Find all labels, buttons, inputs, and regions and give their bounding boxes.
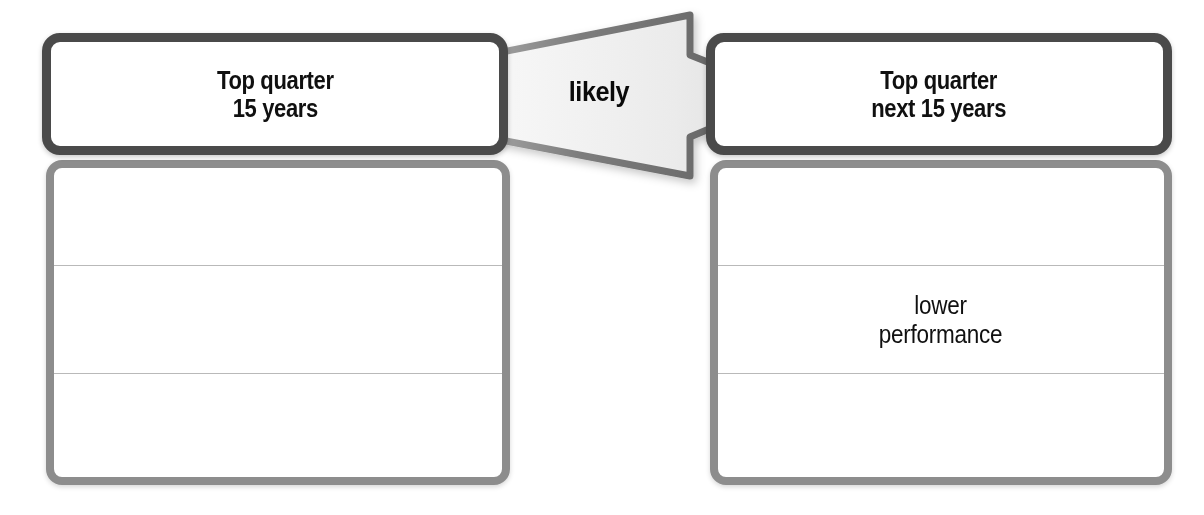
top-right-card[interactable]: Top quarter next 15 years bbox=[706, 33, 1172, 155]
bottom-left-band-middle[interactable] bbox=[54, 265, 502, 374]
bottom-left-band-top[interactable] bbox=[54, 168, 502, 265]
top-left-card-label: Top quarter 15 years bbox=[217, 66, 334, 122]
bottom-right-band-middle-label: lower performance bbox=[879, 291, 1002, 348]
arrow-label: likely bbox=[536, 76, 662, 108]
bottom-right-band-bottom[interactable] bbox=[718, 374, 1164, 477]
bottom-right-bands: lower performance bbox=[718, 168, 1164, 477]
top-left-card[interactable]: Top quarter 15 years bbox=[42, 33, 508, 155]
bottom-right-card[interactable]: lower performance bbox=[710, 160, 1172, 485]
bottom-right-band-top[interactable] bbox=[718, 168, 1164, 265]
bottom-right-band-middle[interactable]: lower performance bbox=[718, 265, 1164, 374]
bottom-left-bands bbox=[54, 168, 502, 477]
diagram-canvas: lower performance bbox=[0, 0, 1204, 515]
bottom-left-band-bottom[interactable] bbox=[54, 374, 502, 477]
top-right-card-label: Top quarter next 15 years bbox=[872, 66, 1007, 122]
bottom-left-card[interactable] bbox=[46, 160, 510, 485]
